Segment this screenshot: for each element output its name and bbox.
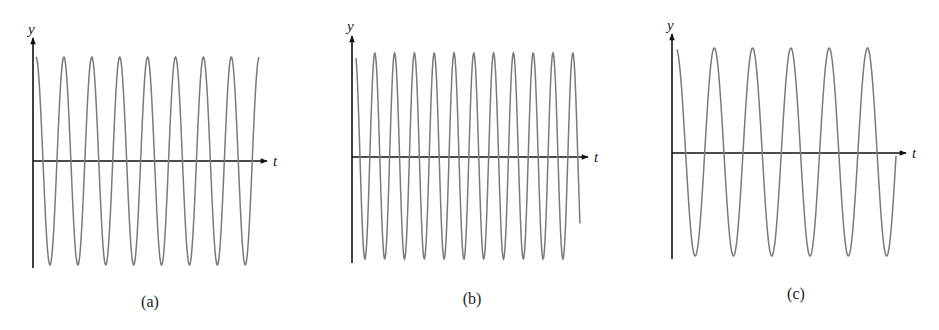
caption-c: (c) — [787, 285, 805, 303]
panel-b: y t — [345, 18, 599, 263]
caption-b: (b) — [463, 290, 482, 308]
panel-c-y-label: y — [665, 17, 674, 33]
panel-b-t-label: t — [594, 149, 599, 165]
panel-a: y t — [26, 21, 278, 268]
figure-canvas: y t y t y t — [0, 0, 939, 330]
panel-b-sinusoid — [356, 53, 580, 259]
panel-c-t-label: t — [912, 145, 917, 161]
panel-a-y-label: y — [26, 21, 35, 37]
panel-b-y-label: y — [345, 18, 354, 34]
panel-a-t-label: t — [273, 153, 278, 169]
panel-c-sinusoid — [677, 48, 896, 256]
panel-c: y t — [665, 17, 917, 259]
caption-a: (a) — [141, 293, 159, 311]
